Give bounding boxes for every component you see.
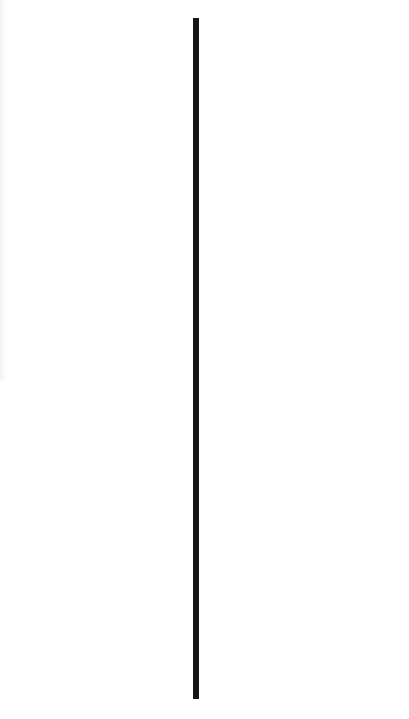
vertical-divider-line — [193, 18, 199, 699]
left-edge-shade — [0, 0, 6, 380]
